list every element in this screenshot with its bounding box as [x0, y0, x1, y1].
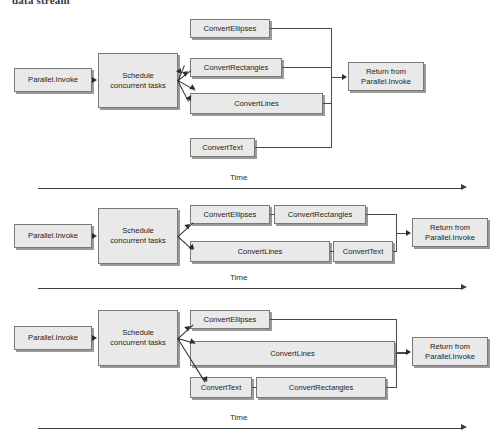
diagram-1-time-label: Time: [230, 173, 247, 182]
diagram-1-time-axis: Time: [38, 172, 470, 194]
diagram-3-arrow-to-return: [406, 349, 411, 355]
diagram-1-convert-ellipses-box[interactable]: ConvertEllipses: [190, 19, 270, 38]
diagram-1-convert-rectangles-label: ConvertRectangles: [204, 63, 269, 73]
diagram-3-convert-lines-box[interactable]: ConvertLines: [190, 341, 395, 366]
diagram-1-return-from-label: Return from Parallel.Invoke: [361, 67, 411, 86]
diagram-1-time-axis-arrowhead: [461, 184, 467, 190]
diagram-2-convert-rectangles-label: ConvertRectangles: [288, 210, 353, 220]
diagram-1-arrow-to-schedule: [92, 77, 97, 83]
diagram-2-connector-text-out: [393, 251, 397, 252]
diagram-1-return-from-box[interactable]: Return from Parallel.Invoke: [348, 62, 424, 91]
diagram-2-time-axis-line: [38, 288, 462, 289]
diagram-1-parallel-invoke-label: Parallel.Invoke: [28, 75, 78, 85]
diagram-3-parallel-invoke-box[interactable]: Parallel.Invoke: [14, 326, 92, 350]
diagram-3-return-from-box[interactable]: Return from Parallel.Invoke: [412, 337, 488, 366]
diagram-3-schedule-label: Schedule concurrent tasks: [110, 328, 166, 347]
diagram-3-parallel-invoke-label: Parallel.Invoke: [28, 333, 78, 343]
diagram-2-parallel-invoke-label: Parallel.Invoke: [28, 231, 78, 241]
diagram-2-arrow-to-return: [406, 230, 411, 236]
diagram-2-convert-lines-box[interactable]: ConvertLines: [190, 241, 330, 262]
diagram-2-connector-rectangles-out: [366, 214, 397, 215]
diagram-1-schedule-box[interactable]: Schedule concurrent tasks: [98, 53, 178, 108]
running-heading: data stream: [12, 0, 70, 6]
diagram-1-connector-rectangles-out: [282, 67, 332, 68]
diagram-2-convert-text-label: ConvertText: [343, 247, 384, 257]
diagram-1-arrow-to-return: [342, 74, 347, 80]
diagram-1-convert-lines-label: ConvertLines: [234, 99, 279, 109]
diagram-3-time-axis-line: [38, 428, 462, 429]
diagram-1-convert-lines-box[interactable]: ConvertLines: [190, 93, 323, 114]
diagram-2-convert-lines-label: ConvertLines: [238, 247, 283, 257]
diagram-3-connector-ellipses-out: [270, 319, 397, 320]
diagram-3-convert-text-label: ConvertText: [201, 383, 242, 393]
diagram-1-arrow-to-lines: [189, 84, 196, 92]
diagram-2-schedule-label: Schedule concurrent tasks: [110, 226, 166, 245]
diagram-3-convert-rectangles-box[interactable]: ConvertRectangles: [256, 377, 386, 398]
diagram-3-arrow-to-schedule: [92, 335, 97, 341]
diagram-2-schedule-box[interactable]: Schedule concurrent tasks: [98, 208, 178, 264]
diagram-3-time-axis-arrowhead: [461, 424, 467, 430]
diagram-2-return-from-box[interactable]: Return from Parallel.Invoke: [412, 218, 488, 247]
diagram-3-convert-lines-label: ConvertLines: [270, 349, 315, 359]
diagram-2-time-axis-arrowhead: [461, 284, 467, 290]
diagram-3-time-axis: Time: [38, 412, 470, 434]
diagram-1-parallel-invoke-box[interactable]: Parallel.Invoke: [14, 68, 92, 92]
diagram-2-connector-lines-to-text: [330, 251, 334, 252]
diagram-2-convert-ellipses-box[interactable]: ConvertEllipses: [190, 205, 270, 224]
diagram-1-connector-ellipses-out: [270, 28, 332, 29]
diagram-1-schedule-label: Schedule concurrent tasks: [110, 71, 166, 90]
diagram-3-connector-rectangles-out: [386, 387, 397, 388]
diagram-2-parallel-invoke-box[interactable]: Parallel.Invoke: [14, 224, 92, 248]
diagram-1-time-axis-line: [38, 188, 462, 189]
diagram-2-convert-ellipses-label: ConvertEllipses: [204, 210, 257, 220]
diagram-3-time-label: Time: [230, 413, 247, 422]
diagram-3-convert-ellipses-box[interactable]: ConvertEllipses: [190, 310, 270, 329]
diagram-2-time-axis: Time: [38, 272, 470, 294]
diagram-3-connector-text-to-rectangles: [252, 387, 257, 388]
diagram-page: data stream Parallel.Invoke Schedule con…: [0, 0, 497, 443]
diagram-2-connector-ellipses-to-rectangles: [270, 214, 275, 215]
diagram-2-convert-rectangles-box[interactable]: ConvertRectangles: [274, 205, 366, 224]
diagram-2-convert-text-box[interactable]: ConvertText: [333, 241, 393, 262]
diagram-1-convert-text-label: ConvertText: [202, 143, 243, 153]
diagram-3-convert-rectangles-label: ConvertRectangles: [289, 383, 354, 393]
diagram-2-time-label: Time: [230, 273, 247, 282]
diagram-3-schedule-box[interactable]: Schedule concurrent tasks: [98, 310, 178, 366]
diagram-1-convert-ellipses-label: ConvertEllipses: [204, 24, 257, 34]
diagram-3-convert-ellipses-label: ConvertEllipses: [204, 315, 257, 325]
diagram-3-merge-bus: [396, 319, 397, 387]
diagram-3-convert-text-box[interactable]: ConvertText: [190, 377, 252, 398]
diagram-1-connector-text-out: [255, 147, 332, 148]
diagram-2-arrow-to-schedule: [92, 233, 97, 239]
diagram-3-return-from-label: Return from Parallel.Invoke: [425, 342, 475, 361]
diagram-1-convert-rectangles-box[interactable]: ConvertRectangles: [190, 58, 282, 77]
diagram-1-merge-bus: [331, 28, 332, 147]
diagram-1-convert-text-box[interactable]: ConvertText: [190, 138, 255, 157]
diagram-2-return-from-label: Return from Parallel.Invoke: [425, 223, 475, 242]
